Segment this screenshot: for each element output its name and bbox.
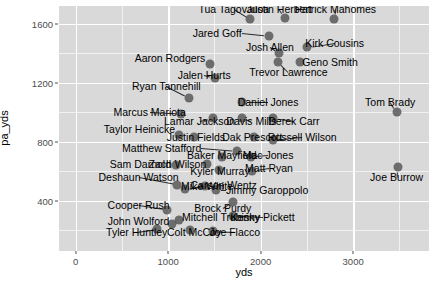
x-axis-tick-label: 0 [73,256,78,267]
data-point [329,15,338,24]
data-point [185,93,194,102]
data-point [264,31,273,40]
x-axis-tick-label: 2000 [250,256,271,267]
gridline-minor-vertical [399,6,400,251]
x-axis-tick-mark [75,251,76,254]
data-point-label: Russell Wilson [268,132,337,143]
y-axis-tick-label: 800 [37,136,53,147]
x-axis-tick-mark [353,251,354,254]
data-point-label: Aaron Rodgers [135,52,206,63]
gridline-major-vertical [76,6,77,251]
data-point-label: Daniel Jones [238,96,299,107]
data-point-label: Cooper Rush [108,200,170,211]
x-axis-tick-mark [168,251,169,254]
x-axis-tick-label: 1000 [158,256,179,267]
data-point-label: Kyler Murray [190,166,250,177]
y-axis-tick-label: 1200 [32,77,53,88]
data-point-label: Kirk Cousins [305,37,364,48]
data-point-label: Josh Allen [246,42,294,53]
gridline-major-horizontal [59,24,429,25]
data-point-label: Joe Burrow [370,172,423,183]
data-point-label: Jimmy Garoppolo [226,185,308,196]
data-point-label: Matt Ryan [245,163,293,174]
data-point [246,15,255,24]
y-axis-tick-label: 1600 [32,18,53,29]
y-axis-tick-mark [55,141,58,142]
data-point-label: Joe Flacco [209,226,260,237]
scatter-plot-figure: Tua TagovailoaJustin HerbertPatrick Maho… [0,0,439,289]
x-axis-tick-label: 3000 [343,256,364,267]
data-point-label: Kenny Pickett [230,212,294,223]
gridline-major-horizontal [59,83,429,84]
gridline-minor-horizontal [59,53,429,54]
y-axis-tick-mark [55,200,58,201]
y-axis-tick-mark [55,23,58,24]
data-point-label: Ryan Tannehill [132,80,201,91]
data-point-label: Derek Carr [268,116,319,127]
data-point [205,59,214,68]
plot-panel: Tua TagovailoaJustin HerbertPatrick Maho… [59,6,429,251]
data-point [280,13,289,22]
data-point-label: Taylor Heinicke [104,123,175,134]
x-axis-title: yds [235,266,252,278]
y-axis-tick-mark [55,82,58,83]
data-point-label: Trevor Lawrence [249,67,327,78]
data-point-label: Patrick Mahomes [295,6,376,14]
y-axis-tick-label: 400 [37,195,53,206]
data-point-label: Jared Goff [193,27,242,38]
x-axis-tick-mark [260,251,261,254]
data-point-label: Deshaun Watson [98,172,178,183]
data-point-label: Mac Jones [243,150,294,161]
data-point-label: Tom Brady [365,96,415,107]
data-point-label: Tyler Huntley [106,226,167,237]
data-point [392,108,401,117]
y-axis-title: pa_yds [0,110,10,145]
